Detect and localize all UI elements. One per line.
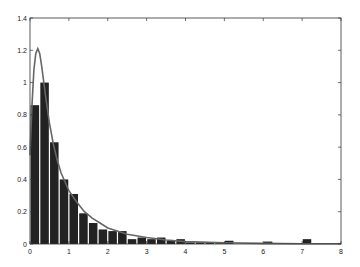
histogram-chart: 012345678 00.20.40.60.811.21.4 [0,0,360,267]
histogram-bar [108,231,117,244]
y-tick-label: 0.8 [17,111,27,118]
y-tick-label: 1.2 [17,47,27,54]
x-tick-label: 8 [339,248,343,255]
x-tick-label: 5 [222,248,226,255]
histogram-bars [31,83,312,244]
histogram-bar [128,239,137,244]
histogram-bar [89,223,98,244]
x-tick-label: 6 [261,248,265,255]
histogram-bar [147,239,156,244]
y-tick-label: 0.2 [17,208,27,215]
histogram-bar [99,229,108,244]
x-tick-label: 1 [67,248,71,255]
y-tick-label: 0.6 [17,144,27,151]
x-tick-label: 3 [145,248,149,255]
x-tick-label: 7 [300,248,304,255]
x-tick-label: 0 [28,248,32,255]
histogram-bar [60,179,69,244]
y-tick-label: 0.4 [17,176,27,183]
y-tick-label: 1.4 [17,15,27,22]
x-tick-label: 4 [184,248,188,255]
histogram-bar [138,238,147,244]
histogram-bar [79,213,88,244]
y-tick-label: 0 [23,241,27,248]
y-tick-label: 1 [23,79,27,86]
x-tick-label: 2 [106,248,110,255]
